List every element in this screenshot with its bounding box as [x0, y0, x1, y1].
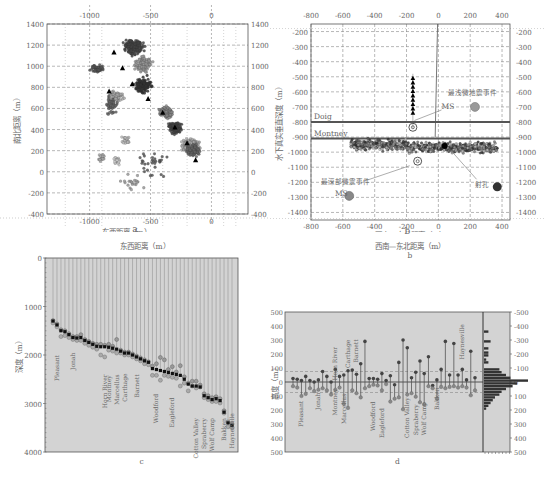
chart-b-depth-section: -200-200-300-300-400-400-500-500-600-600… — [270, 0, 545, 232]
svg-text:200: 200 — [271, 351, 283, 359]
svg-text:Carthage: Carthage — [344, 339, 352, 368]
svg-text:1200: 1200 — [251, 42, 269, 50]
svg-text:400: 400 — [514, 435, 526, 443]
svg-text:300: 300 — [271, 421, 283, 429]
svg-text:200: 200 — [31, 148, 44, 156]
svg-text:-800: -800 — [303, 12, 319, 20]
svg-text:Haynesville: Haynesville — [458, 324, 466, 360]
svg-text:-800: -800 — [292, 119, 308, 127]
svg-text:深度（m）: 深度（m） — [14, 337, 24, 372]
svg-text:-500: -500 — [514, 309, 529, 317]
svg-text:500: 500 — [271, 309, 283, 317]
svg-text:0: 0 — [38, 255, 42, 263]
svg-text:1400: 1400 — [251, 21, 269, 29]
svg-text:Spraberry: Spraberry — [412, 404, 420, 436]
svg-text:Horn River: Horn River — [331, 347, 338, 381]
svg-text:-1200: -1200 — [288, 179, 308, 187]
svg-text:Spraberry: Spraberry — [200, 417, 208, 449]
svg-text:-300: -300 — [514, 337, 529, 345]
svg-text:800: 800 — [31, 84, 44, 92]
svg-text:-400: -400 — [367, 12, 383, 20]
svg-text:-200: -200 — [399, 12, 415, 20]
svg-text:-1100: -1100 — [288, 164, 308, 172]
caption-b: b — [270, 226, 545, 236]
svg-text:Bakken: Bakken — [220, 418, 227, 441]
svg-text:100: 100 — [514, 393, 526, 401]
svg-text:Bakken: Bakken — [433, 387, 440, 410]
svg-text:200: 200 — [464, 12, 477, 20]
svg-text:400: 400 — [271, 435, 283, 443]
panel-b: -200-200-300-300-400-400-500-500-600-600… — [270, 0, 545, 232]
svg-text:-500: -500 — [292, 74, 308, 82]
svg-text:-1100: -1100 — [516, 164, 536, 172]
svg-text:Barnett: Barnett — [133, 374, 140, 398]
svg-text:-400: -400 — [292, 59, 308, 67]
svg-text:600: 600 — [251, 105, 264, 113]
svg-text:3000: 3000 — [24, 401, 42, 409]
svg-text:c: c — [139, 457, 143, 466]
svg-text:Wolf Camp: Wolf Camp — [208, 418, 216, 451]
svg-text:300: 300 — [271, 337, 283, 345]
svg-text:-1000: -1000 — [516, 149, 536, 157]
svg-text:最浅微地震事件: 最浅微地震事件 — [448, 88, 497, 97]
svg-text:南北距离（m）: 南北距离（m） — [12, 94, 22, 143]
svg-text:MS: MS — [442, 102, 455, 111]
svg-text:1200: 1200 — [26, 42, 44, 50]
svg-text:-900: -900 — [292, 134, 308, 142]
svg-text:Pleasant: Pleasant — [53, 354, 60, 381]
svg-text:1000: 1000 — [26, 63, 44, 71]
svg-text:-1400: -1400 — [288, 209, 308, 217]
svg-text:500: 500 — [271, 449, 283, 457]
svg-text:-400: -400 — [28, 211, 44, 219]
svg-text:MS: MS — [335, 189, 348, 198]
panel-a: -400-400-200-200002002004004006006008008… — [0, 0, 270, 232]
svg-text:-100: -100 — [514, 365, 529, 373]
svg-text:-400: -400 — [251, 211, 267, 219]
svg-text:-500: -500 — [516, 74, 532, 82]
svg-text:Woodford: Woodford — [152, 394, 159, 424]
svg-text:-1000: -1000 — [80, 12, 100, 20]
svg-text:-600: -600 — [516, 89, 532, 97]
svg-text:Marcellus: Marcellus — [340, 394, 347, 424]
svg-text:-200: -200 — [28, 190, 44, 198]
svg-text:-1300: -1300 — [288, 194, 308, 202]
svg-text:Marcellus: Marcellus — [113, 374, 120, 404]
svg-text:-200: -200 — [516, 29, 532, 37]
svg-text:1000: 1000 — [251, 63, 269, 71]
svg-text:-1200: -1200 — [516, 179, 536, 187]
panel-c: 东西距离（m）01000200030004000深度（m）PleasantJon… — [0, 240, 270, 477]
svg-text:Cotton Valley: Cotton Valley — [192, 417, 200, 458]
svg-text:东西距离（m）: 东西距离（m） — [120, 241, 169, 251]
svg-text:Cotton Valley: Cotton Valley — [403, 397, 411, 438]
svg-text:-700: -700 — [516, 104, 532, 112]
svg-text:-600: -600 — [335, 12, 351, 20]
svg-text:1400: 1400 — [26, 21, 44, 29]
svg-text:Woodford: Woodford — [369, 401, 376, 431]
svg-text:400: 400 — [31, 127, 44, 135]
svg-text:200: 200 — [514, 407, 526, 415]
svg-text:-900: -900 — [516, 134, 532, 142]
svg-text:-200: -200 — [292, 29, 308, 37]
svg-text:-1400: -1400 — [516, 209, 536, 217]
svg-text:Jonah: Jonah — [314, 393, 322, 411]
svg-text:-300: -300 — [292, 44, 308, 52]
svg-text:-200: -200 — [514, 351, 529, 359]
svg-text:-1000: -1000 — [288, 149, 308, 157]
svg-text:西南—东北距离（m）: 西南—东北距离（m） — [375, 241, 446, 251]
svg-text:Carthage: Carthage — [121, 373, 129, 402]
svg-text:水下真实垂直深度（m）: 水下真实垂直深度（m） — [274, 83, 284, 160]
svg-text:1000: 1000 — [24, 304, 42, 312]
svg-text:Pleasant: Pleasant — [297, 400, 304, 427]
svg-text:400: 400 — [495, 12, 508, 20]
svg-text:2000: 2000 — [24, 352, 42, 360]
svg-text:200: 200 — [251, 148, 264, 156]
svg-text:300: 300 — [514, 421, 526, 429]
svg-text:b: b — [408, 251, 413, 260]
svg-text:-500: -500 — [143, 12, 159, 20]
svg-text:-1300: -1300 — [516, 194, 536, 202]
svg-text:400: 400 — [251, 127, 264, 135]
chart-a-map-view: -400-400-200-200002002004004006006008008… — [0, 0, 270, 232]
svg-text:Eagleford: Eagleford — [378, 408, 386, 438]
svg-text:400: 400 — [271, 323, 283, 331]
svg-text:Wolf Camp: Wolf Camp — [420, 402, 428, 435]
